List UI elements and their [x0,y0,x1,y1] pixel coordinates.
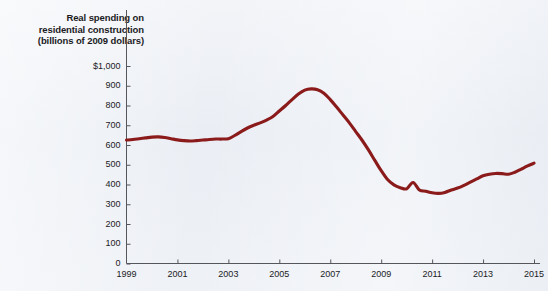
y-axis-tick-label: 600 [63,141,121,150]
y-axis-tick-label: 800 [63,101,121,110]
y-axis-tick-label: 900 [63,81,121,90]
x-axis-tick-label: 2003 [208,270,248,279]
y-axis-tick-label: 100 [63,239,121,248]
x-axis-tick-label: 1999 [107,270,147,279]
x-axis-tick-label: 2007 [310,270,350,279]
x-axis-tick-label: 2009 [361,270,401,279]
x-axis-tick-label: 2005 [259,270,299,279]
y-axis-tick-label: 0 [63,259,121,268]
residential-construction-line-chart: Real spending on residential constructio… [0,0,548,291]
y-tick-marks [127,67,131,265]
x-tick-marks [178,260,535,264]
axis-group [127,10,541,264]
y-axis-tick-label: 200 [63,220,121,229]
y-axis-tick-label: 400 [63,180,121,189]
y-axis-tick-label: 300 [63,200,121,209]
y-axis-tick-label: 500 [63,160,121,169]
x-axis-tick-label: 2011 [412,270,452,279]
x-axis-tick-label: 2001 [157,270,197,279]
x-axis-tick-label: 2015 [514,270,548,279]
y-axis-tick-label: 700 [63,121,121,130]
data-line-residential-construction [127,89,535,194]
x-axis-tick-label: 2013 [463,270,503,279]
y-axis-tick-label: $1,000 [63,62,121,71]
